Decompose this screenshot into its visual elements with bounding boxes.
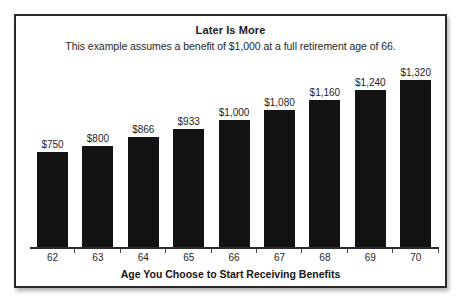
plot-area: $750$800$866$933$1,000$1,080$1,160$1,240… bbox=[30, 62, 439, 247]
bar-group-age-64[interactable]: $866 bbox=[121, 62, 166, 247]
bar[interactable] bbox=[219, 120, 250, 247]
x-tick-label-62: 62 bbox=[30, 252, 75, 263]
bar-group-age-62[interactable]: $750 bbox=[30, 62, 75, 247]
x-tick-label-70: 70 bbox=[393, 252, 438, 263]
x-axis-tick bbox=[211, 249, 212, 253]
bar-group-age-66[interactable]: $1,000 bbox=[212, 62, 257, 247]
x-axis-tick bbox=[347, 249, 348, 253]
x-tick-label-69: 69 bbox=[348, 252, 393, 263]
x-axis-tick bbox=[392, 249, 393, 253]
chart-title: Later Is More bbox=[16, 24, 445, 36]
bar-group-age-69[interactable]: $1,240 bbox=[348, 62, 393, 247]
bar[interactable] bbox=[82, 146, 113, 247]
x-axis-line bbox=[30, 247, 439, 249]
bar[interactable] bbox=[264, 110, 295, 247]
bar[interactable] bbox=[128, 137, 159, 247]
bar[interactable] bbox=[355, 90, 386, 247]
bar-value-label: $1,000 bbox=[208, 107, 261, 118]
bar[interactable] bbox=[309, 100, 340, 247]
bar[interactable] bbox=[173, 129, 204, 247]
bar-group-age-63[interactable]: $800 bbox=[75, 62, 120, 247]
bar-value-label: $1,080 bbox=[253, 97, 306, 108]
x-tick-label-67: 67 bbox=[257, 252, 302, 263]
chart-frame: Later Is More This example assumes a ben… bbox=[14, 14, 447, 288]
caption-sliver bbox=[18, 297, 438, 304]
x-tick-label-68: 68 bbox=[302, 252, 347, 263]
bar-value-label: $1,320 bbox=[389, 67, 442, 78]
bar-value-label: $1,240 bbox=[344, 77, 397, 88]
x-tick-label-63: 63 bbox=[75, 252, 120, 263]
bar[interactable] bbox=[37, 152, 68, 247]
x-tick-label-66: 66 bbox=[212, 252, 257, 263]
x-axis-title: Age You Choose to Start Receiving Benefi… bbox=[16, 268, 445, 280]
x-axis-tick bbox=[438, 249, 439, 253]
x-tick-label-65: 65 bbox=[166, 252, 211, 263]
bar-group-age-68[interactable]: $1,160 bbox=[302, 62, 347, 247]
x-axis-tick-labels: 626364656667686970 bbox=[30, 252, 439, 268]
bar-group-age-67[interactable]: $1,080 bbox=[257, 62, 302, 247]
bar[interactable] bbox=[400, 80, 431, 247]
x-axis-tick bbox=[165, 249, 166, 253]
chart-subtitle: This example assumes a benefit of $1,000… bbox=[16, 40, 445, 52]
bar-group-age-70[interactable]: $1,320 bbox=[393, 62, 438, 247]
x-tick-label-64: 64 bbox=[121, 252, 166, 263]
x-axis-tick bbox=[256, 249, 257, 253]
x-axis-tick bbox=[74, 249, 75, 253]
x-axis-tick bbox=[120, 249, 121, 253]
x-axis-tick bbox=[301, 249, 302, 253]
bar-value-label: $1,160 bbox=[298, 87, 351, 98]
bar-group-age-65[interactable]: $933 bbox=[166, 62, 211, 247]
